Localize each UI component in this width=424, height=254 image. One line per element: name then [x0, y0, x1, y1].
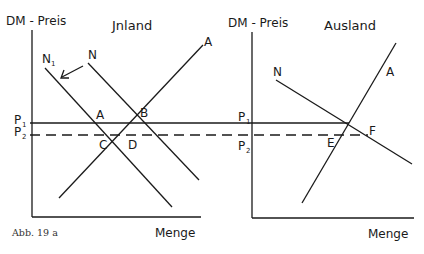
label-p1-sub-inland: 1 [22, 121, 26, 129]
label-a-inland: A [204, 35, 213, 49]
figure-caption: Abb. 19 a [11, 227, 58, 238]
point-c: C [99, 138, 107, 152]
label-p2-sub-ausland: 2 [246, 147, 250, 155]
label-n-ausland: N [273, 65, 282, 79]
point-b: B [140, 106, 148, 120]
panel-title-inland: Jnland [111, 18, 152, 33]
panel-inland: DM - Preis Jnland Menge N 1 N A P 1 P 2 … [6, 14, 213, 240]
label-p2-ausland: P [238, 139, 245, 153]
label-p2-sub-inland: 2 [22, 133, 26, 141]
point-a: A [96, 108, 105, 122]
y-axis-label-ausland: DM - Preis [228, 16, 288, 30]
point-d: D [128, 138, 137, 152]
panel-title-ausland: Ausland [324, 18, 376, 33]
label-p1-sub-ausland: 1 [246, 118, 250, 126]
y-axis-label-inland: DM - Preis [6, 14, 66, 28]
label-a-ausland: A [386, 65, 395, 79]
demand-curve-n [88, 63, 199, 180]
label-n-inland: N [88, 48, 97, 62]
shift-arrow-icon [62, 66, 83, 77]
demand-curve-n1 [45, 68, 172, 207]
label-n1: N [42, 52, 51, 66]
point-e: E [327, 136, 335, 150]
label-p1-ausland: P [238, 110, 245, 124]
diagram-canvas: DM - Preis Jnland Menge N 1 N A P 1 P 2 … [0, 0, 424, 254]
x-axis-label-inland: Menge [155, 226, 195, 240]
x-axis-label-ausland: Menge [368, 227, 408, 241]
demand-curve-n-ausland [276, 80, 412, 164]
panel-ausland: DM - Preis Ausland Menge N A P 1 P 2 E F [228, 16, 414, 241]
label-n1-sub: 1 [51, 60, 55, 68]
point-f: F [369, 124, 376, 138]
label-p2-inland: P [14, 125, 21, 139]
